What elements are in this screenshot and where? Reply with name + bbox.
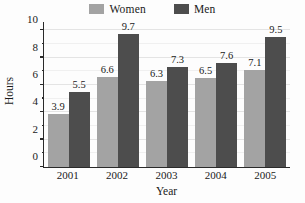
bar-value-label: 5.5	[73, 80, 86, 90]
y-axis-tick-label: 0	[33, 151, 39, 162]
x-axis-tick-label-2001: 2001	[57, 170, 79, 181]
bar-women-2005[interactable]: 7.1	[244, 22, 265, 167]
bar-group-2004: 6.57.6	[195, 22, 237, 167]
legend-swatch-men-icon	[174, 4, 189, 14]
x-axis-tick-label-2005: 2005	[254, 170, 276, 181]
bar-value-label: 9.5	[269, 25, 282, 35]
bar-rect	[48, 114, 69, 167]
y-axis-tick-label: 10	[27, 14, 38, 25]
legend-entry-men: Men	[174, 4, 216, 15]
legend-label-men: Men	[194, 4, 216, 15]
bar-men-2003[interactable]: 7.3	[167, 22, 188, 167]
bar-men-2001[interactable]: 5.5	[69, 22, 90, 167]
bar-women-2002[interactable]: 6.6	[97, 22, 118, 167]
bar-rect	[118, 34, 139, 167]
bar-group-2005: 7.19.5	[244, 22, 286, 167]
x-axis-title: Year	[43, 185, 290, 197]
y-axis-tick-label: 4	[33, 96, 39, 107]
bar-women-2004[interactable]: 6.5	[195, 22, 216, 167]
bar-men-2005[interactable]: 9.5	[265, 22, 286, 167]
bar-rect	[167, 67, 188, 167]
bar-value-label: 3.9	[52, 102, 65, 112]
legend-swatch-women-icon	[89, 4, 104, 14]
bar-group-2002: 6.69.7	[97, 22, 139, 167]
x-axis-tick-label-2003: 2003	[155, 170, 177, 181]
bar-rect	[265, 37, 286, 167]
bar-value-label: 7.6	[220, 51, 233, 61]
y-axis-title: Hours	[3, 61, 15, 121]
legend-entry-women: Women	[89, 4, 145, 15]
bar-men-2004[interactable]: 7.6	[216, 22, 237, 167]
bar-rect	[244, 70, 265, 167]
legend-label-women: Women	[109, 4, 145, 15]
bar-value-label: 7.3	[171, 55, 184, 65]
bar-rect	[69, 92, 90, 167]
bar-value-label: 6.5	[199, 66, 212, 76]
x-axis-tick-labels: 20012002200320042005	[43, 170, 290, 184]
bar-group-2001: 3.95.5	[48, 22, 90, 167]
bar-men-2002[interactable]: 9.7	[118, 22, 139, 167]
bar-rect	[146, 81, 167, 167]
bar-group-2003: 6.37.3	[146, 22, 188, 167]
x-axis-tick-label-2002: 2002	[106, 170, 128, 181]
bar-value-label: 9.7	[122, 22, 135, 32]
plot-area: 0246810 3.95.56.69.76.37.36.57.67.19.5	[43, 22, 290, 168]
chart-legend: Women Men	[0, 1, 305, 17]
bar-rect	[97, 77, 118, 167]
bar-women-2001[interactable]: 3.9	[48, 22, 69, 167]
bar-rect	[216, 63, 237, 167]
bar-groups: 3.95.56.69.76.37.36.57.67.19.5	[44, 22, 290, 167]
bar-rect	[195, 78, 216, 167]
x-axis-tick-label-2004: 2004	[205, 170, 227, 181]
y-axis-tick-label: 2	[33, 123, 39, 134]
bar-value-label: 6.6	[101, 65, 114, 75]
chart-figure: Women Men 0246810 3.95.56.69.76.37.36.57…	[0, 0, 305, 203]
bar-value-label: 7.1	[248, 58, 261, 68]
y-axis-tick-label: 8	[33, 41, 39, 52]
bar-women-2003[interactable]: 6.3	[146, 22, 167, 167]
y-axis-tick-label: 6	[33, 68, 39, 79]
bar-value-label: 6.3	[150, 69, 163, 79]
